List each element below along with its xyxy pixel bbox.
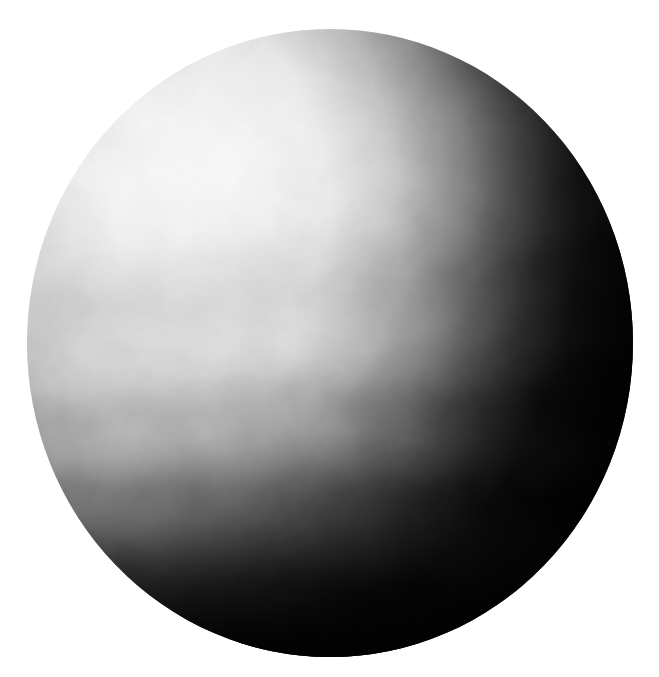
- image-alt-text: Greyscale image of Venus: [0, 0, 1, 1]
- venus-disk: [27, 29, 633, 657]
- disk-rim: [27, 29, 633, 657]
- image-canvas: Greyscale image of Venus: [0, 0, 659, 677]
